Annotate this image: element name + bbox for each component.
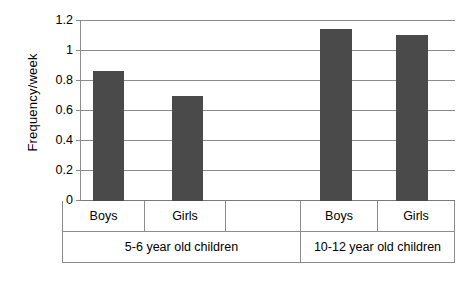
tick-mark bbox=[76, 110, 81, 111]
table-border-bottom bbox=[62, 262, 455, 263]
y-tick-label: 0.4 bbox=[56, 133, 73, 147]
group-label-10-12: 10-12 year old children bbox=[301, 232, 454, 262]
tick-mark bbox=[76, 140, 81, 141]
group-label-5-6: 5-6 year old children bbox=[63, 232, 300, 262]
cat-cell-empty bbox=[226, 201, 300, 231]
gridline bbox=[80, 20, 455, 21]
tick-mark bbox=[76, 50, 81, 51]
y-tick-label: 0.2 bbox=[56, 163, 73, 177]
cat-cell-boys-10-12: Boys bbox=[301, 201, 377, 231]
y-tick-label: 1.2 bbox=[56, 13, 73, 27]
cat-cell-girls-5-6: Girls bbox=[145, 201, 225, 231]
bar-girls-5-6 bbox=[172, 96, 203, 201]
bar-boys-5-6 bbox=[93, 71, 124, 202]
bar-boys-10-12 bbox=[320, 29, 352, 202]
bar-girls-10-12 bbox=[396, 35, 428, 202]
category-table: Boys Girls Boys Girls 5-6 year old child… bbox=[62, 201, 455, 263]
bar-chart: Frequency/week 1.2 1 0.8 0.6 0.4 bbox=[0, 0, 464, 281]
tick-mark bbox=[76, 80, 81, 81]
cat-cell-girls-10-12: Girls bbox=[378, 201, 454, 231]
y-tick-label: 0.8 bbox=[56, 73, 73, 87]
y-tick-label: 0.6 bbox=[56, 103, 73, 117]
tick-mark bbox=[76, 170, 81, 171]
y-tick-label: 1 bbox=[66, 43, 73, 57]
plot-area: 1.2 1 0.8 0.6 0.4 0.2 bbox=[80, 20, 455, 201]
table-border-right bbox=[454, 201, 455, 263]
cat-cell-boys-5-6: Boys bbox=[63, 201, 144, 231]
y-axis-title: Frequency/week bbox=[25, 8, 40, 198]
tick-mark bbox=[76, 20, 81, 21]
